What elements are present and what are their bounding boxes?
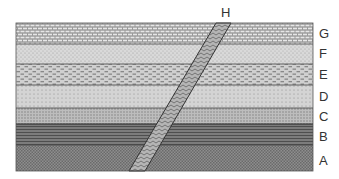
layer-f (16, 44, 313, 64)
label-h: H (221, 6, 230, 19)
layer-d (16, 85, 313, 108)
label-f: F (319, 47, 327, 60)
layer-a (16, 145, 313, 171)
cross-section-figure (0, 0, 339, 179)
label-c: C (319, 110, 328, 123)
label-a: A (319, 154, 328, 167)
label-g: G (319, 27, 329, 40)
label-e: E (319, 68, 328, 81)
layer-g (16, 23, 313, 44)
layer-e (16, 64, 313, 85)
label-d: D (319, 90, 328, 103)
label-b: B (319, 130, 328, 143)
